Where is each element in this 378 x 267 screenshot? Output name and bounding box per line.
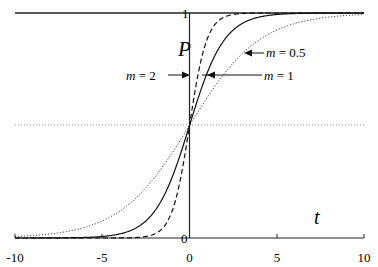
annotation-m-2: [168, 72, 190, 79]
x-tick-labels: -10 -5 0 5 10: [6, 250, 370, 265]
x-axis-label: t: [314, 206, 320, 228]
annotation-m-0.5: [244, 50, 264, 57]
svg-text:10: 10: [358, 250, 371, 265]
label-m-0.5: m = 0.5: [266, 45, 305, 60]
y-tick-0: 0: [181, 231, 188, 246]
svg-text:-5: -5: [97, 250, 108, 265]
annotation-m-1: [202, 72, 262, 79]
svg-text:0: 0: [186, 250, 193, 265]
y-tick-1: 1: [182, 6, 189, 21]
chart-svg: P t 1 0 -10 -5 0 5 10 m = 0.5 m = 1 m = …: [0, 0, 378, 267]
svg-text:-10: -10: [6, 250, 23, 265]
label-m-2: m = 2: [126, 68, 156, 83]
svg-text:5: 5: [274, 250, 281, 265]
label-m-1: m = 1: [264, 68, 294, 83]
y-axis-label: P: [177, 37, 191, 61]
logistic-chart: P t 1 0 -10 -5 0 5 10 m = 0.5 m = 1 m = …: [0, 0, 378, 267]
